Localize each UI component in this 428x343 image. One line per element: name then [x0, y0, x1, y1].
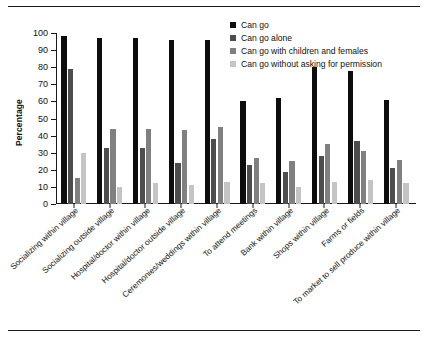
- bar: [325, 144, 330, 204]
- legend-item: Can go: [230, 19, 426, 31]
- bar: [169, 40, 174, 204]
- y-tick-label: 70: [38, 79, 48, 90]
- bar: [260, 183, 265, 204]
- bar: [117, 187, 122, 204]
- y-tick-label: 30: [38, 148, 48, 159]
- y-axis-title: Percentage: [10, 78, 28, 168]
- bar: [140, 148, 145, 204]
- bar: [68, 69, 73, 204]
- bar: [218, 127, 223, 204]
- bar: [361, 151, 366, 204]
- bar: [104, 148, 109, 204]
- bar: [240, 101, 245, 204]
- bar: [354, 141, 359, 204]
- legend-label: Can go without asking for permission: [241, 59, 382, 69]
- bar: [97, 38, 102, 204]
- legend-item: Can go with children and females: [230, 45, 426, 57]
- bar: [189, 185, 194, 204]
- bar-group: [56, 33, 92, 204]
- legend-swatch: [230, 22, 236, 28]
- y-tick-label: 20: [38, 165, 48, 176]
- legend-label: Can go: [241, 20, 269, 30]
- legend: Can goCan go aloneCan go with children a…: [230, 19, 426, 71]
- bar: [296, 187, 301, 204]
- y-tick-label: 100: [33, 28, 48, 39]
- bar: [224, 182, 229, 204]
- y-tick-label: 10: [38, 182, 48, 193]
- bar: [390, 168, 395, 204]
- bar: [75, 178, 80, 204]
- bar: [384, 100, 389, 204]
- bar: [254, 158, 259, 204]
- bar: [276, 98, 281, 204]
- bar: [397, 160, 402, 204]
- legend-item: Can go alone: [230, 32, 426, 44]
- legend-swatch: [230, 35, 236, 41]
- bar: [153, 183, 158, 204]
- bar: [283, 172, 288, 204]
- bar-group: [128, 33, 164, 204]
- y-tick: 0: [51, 204, 56, 205]
- bar-group: [163, 33, 199, 204]
- legend-label: Can go with children and females: [241, 46, 368, 56]
- bar: [368, 180, 373, 204]
- bar: [319, 156, 324, 204]
- bar: [403, 183, 408, 204]
- bar: [81, 153, 86, 204]
- bar: [146, 129, 151, 204]
- y-tick-label: 50: [38, 114, 48, 125]
- bar: [110, 129, 115, 204]
- bar: [61, 36, 66, 204]
- y-tick-label: 90: [38, 45, 48, 56]
- bar: [247, 165, 252, 204]
- y-tick-label: 80: [38, 62, 48, 73]
- y-tick-label: 60: [38, 96, 48, 107]
- bar: [289, 161, 294, 204]
- y-tick-label: 0: [43, 199, 48, 210]
- y-tick-label: 40: [38, 131, 48, 142]
- bar: [348, 71, 353, 204]
- bar: [175, 163, 180, 204]
- bar: [312, 67, 317, 204]
- plot-area: Percentage 0102030405060708090100 Social…: [0, 0, 428, 343]
- chart-figure: Percentage 0102030405060708090100 Social…: [0, 0, 428, 343]
- bar: [205, 40, 210, 204]
- bar: [133, 38, 138, 204]
- bar: [332, 182, 337, 204]
- bar: [182, 130, 187, 204]
- legend-swatch: [230, 48, 236, 54]
- legend-label: Can go alone: [241, 33, 292, 43]
- legend-swatch: [230, 61, 236, 67]
- bar: [211, 139, 216, 204]
- bar-group: [92, 33, 128, 204]
- legend-item: Can go without asking for permission: [230, 58, 426, 70]
